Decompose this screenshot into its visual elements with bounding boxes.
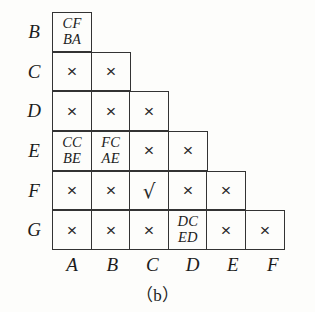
figure-caption: （b）	[0, 281, 315, 306]
cross-icon: ×	[144, 103, 154, 120]
cross-icon: ×	[105, 103, 115, 120]
matrix-cell-f-a: ×	[52, 171, 92, 211]
cross-icon: ×	[67, 222, 77, 239]
matrix-cell-f-e: ×	[206, 171, 246, 211]
cross-icon: ×	[221, 182, 231, 199]
cell-pair-top: FC	[101, 135, 120, 151]
cross-icon: ×	[183, 142, 193, 159]
cell-pair-text: CF BA	[63, 16, 82, 47]
cell-pair-bottom: AE	[102, 151, 120, 167]
column-label-d: D	[172, 252, 212, 278]
matrix-cell-e-b: FC AE	[91, 131, 131, 171]
row-label-c: C	[22, 52, 46, 92]
check-icon: √	[143, 181, 156, 201]
matrix-cell-e-d: ×	[168, 131, 208, 171]
column-label-a: A	[52, 252, 92, 278]
column-label-row: A B C D E F	[52, 252, 293, 278]
row-label-e: E	[22, 131, 46, 171]
table-row: CC BE FC AE × ×	[52, 131, 206, 171]
cross-icon: ×	[144, 142, 154, 159]
cell-pair-bottom: ED	[178, 230, 198, 246]
column-label-e: E	[213, 252, 253, 278]
table-row: × × √ × ×	[52, 171, 245, 211]
matrix-cell-c-b: ×	[91, 52, 131, 92]
cross-icon: ×	[105, 182, 115, 199]
row-label-b: B	[22, 12, 46, 52]
matrix-cell-d-b: ×	[91, 91, 131, 131]
table-row: × × ×	[52, 91, 168, 131]
cross-icon: ×	[67, 103, 77, 120]
cross-icon: ×	[105, 63, 115, 80]
figure-root: B C D E F G CF BA × × ×	[0, 0, 315, 312]
matrix-cell-g-d: DC ED	[168, 210, 208, 250]
matrix-cell-g-b: ×	[91, 210, 131, 250]
matrix-cell-b-a: CF BA	[52, 12, 92, 52]
row-label-f: F	[22, 171, 46, 211]
triangular-matrix-grid: CF BA × × × × ×	[52, 12, 293, 250]
column-label-b: B	[92, 252, 132, 278]
table-row: × ×	[52, 52, 129, 92]
cell-pair-top: DC	[177, 214, 198, 230]
cell-pair-text: DC ED	[177, 214, 198, 245]
cross-icon: ×	[221, 222, 231, 239]
column-label-f: F	[253, 252, 293, 278]
cross-icon: ×	[67, 182, 77, 199]
matrix-cell-c-a: ×	[52, 52, 92, 92]
row-label-g: G	[22, 210, 46, 250]
cross-icon: ×	[105, 222, 115, 239]
cell-pair-bottom: BE	[63, 151, 81, 167]
cell-pair-top: CC	[62, 135, 82, 151]
matrix-cell-f-c: √	[129, 171, 169, 211]
matrix-cell-f-b: ×	[91, 171, 131, 211]
matrix-cell-f-d: ×	[168, 171, 208, 211]
cell-pair-top: CF	[63, 16, 82, 32]
matrix-cell-d-c: ×	[129, 91, 169, 131]
column-label-c: C	[132, 252, 172, 278]
cross-icon: ×	[144, 222, 154, 239]
row-label-d: D	[22, 91, 46, 131]
cross-icon: ×	[260, 222, 270, 239]
cell-pair-text: CC BE	[62, 135, 82, 166]
table-row: CF BA	[52, 12, 91, 52]
matrix-cell-e-c: ×	[129, 131, 169, 171]
matrix-cell-e-a: CC BE	[52, 131, 92, 171]
matrix-cell-g-c: ×	[129, 210, 169, 250]
table-row: × × × DC ED × ×	[52, 210, 283, 250]
matrix-cell-g-a: ×	[52, 210, 92, 250]
cross-icon: ×	[183, 182, 193, 199]
cell-pair-bottom: BA	[63, 32, 81, 48]
matrix-cell-g-f: ×	[245, 210, 285, 250]
cross-icon: ×	[67, 63, 77, 80]
matrix-cell-d-a: ×	[52, 91, 92, 131]
matrix-cell-g-e: ×	[206, 210, 246, 250]
cell-pair-text: FC AE	[101, 135, 120, 166]
